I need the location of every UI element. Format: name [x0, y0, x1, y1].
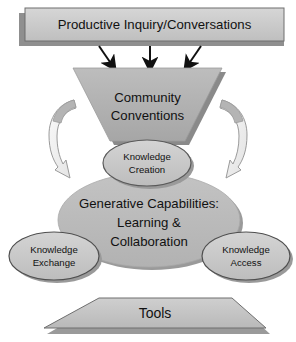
knowledge-creation-label-line2: Creation [129, 164, 165, 175]
knowledge-access-label-line2: Access [231, 257, 262, 268]
arrow-right-shaft [188, 46, 201, 65]
arrow-group-banner-to-funnel [99, 46, 201, 65]
banner-label: Productive Inquiry/Conversations [58, 17, 252, 32]
curved-arrow-left [49, 100, 76, 178]
core-label-line1: Generative Capabilities: [79, 196, 219, 211]
tools-label: Tools [139, 305, 172, 321]
core-label-line3: Collaboration [110, 234, 188, 249]
ellipse-knowledge-exchange: Knowledge Exchange [9, 232, 102, 283]
knowledge-access-label-line1: Knowledge [222, 244, 269, 255]
diagram-svg: Productive Inquiry/Conversations Communi… [0, 0, 296, 342]
arrow-left-shaft [99, 46, 112, 65]
funnel-label-line2: Conventions [111, 108, 185, 123]
tools-trapezoid: Tools [44, 298, 270, 334]
knowledge-creation-label-line1: Knowledge [123, 151, 170, 162]
ellipse-knowledge-access: Knowledge Access [202, 232, 293, 283]
curved-arrow-right [220, 100, 247, 178]
funnel-community-conventions: Community Conventions [73, 68, 226, 145]
knowledge-exchange-label-line2: Exchange [33, 257, 76, 268]
knowledge-exchange-label-line1: Knowledge [30, 244, 77, 255]
diagram-canvas: Productive Inquiry/Conversations Communi… [0, 0, 296, 342]
funnel-label-line1: Community [114, 90, 181, 105]
banner-productive-inquiry: Productive Inquiry/Conversations [19, 8, 284, 46]
core-label-line2: Learning & [117, 215, 181, 230]
